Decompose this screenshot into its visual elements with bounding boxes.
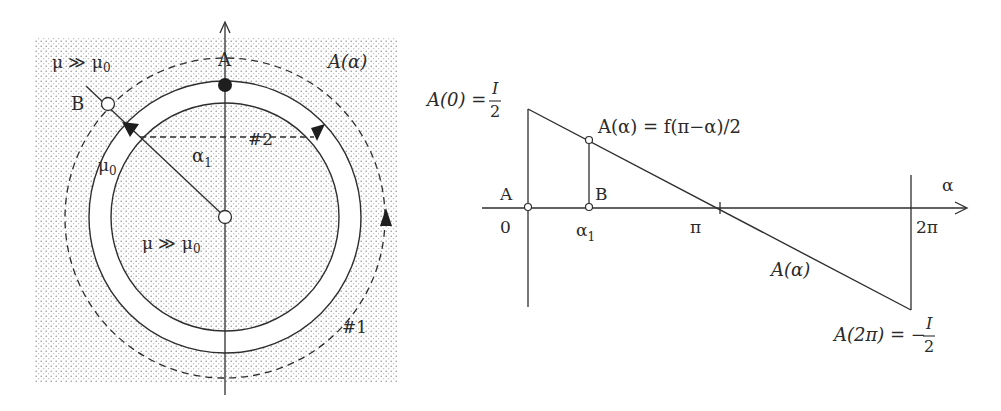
tick-zero-label: 0 — [500, 217, 511, 237]
inner-medium-label: μ ≫ μ0 — [142, 233, 201, 256]
center-marker — [219, 211, 232, 224]
a0-label: A(0) = — [425, 89, 486, 110]
point-a-marker-graph — [525, 204, 532, 211]
point-b-graph-label: B — [595, 184, 608, 204]
a-alpha-equation: A(α) = f(π−α)/2 — [597, 116, 741, 137]
point-a-marker — [218, 78, 232, 92]
a0-denominator: 2 — [490, 102, 500, 121]
x-axis-label: α — [942, 175, 954, 195]
a2pi-numerator: I — [925, 314, 933, 333]
a2pi-label: A(2π) = − — [832, 324, 926, 345]
tick-alpha1-label: α1 — [576, 220, 595, 244]
outer-medium-label: μ ≫ μ0 — [52, 52, 111, 75]
point-b-curve-marker — [586, 137, 593, 144]
a2pi-denominator: 2 — [924, 337, 934, 356]
point-b-marker-graph — [586, 204, 593, 211]
tick-pi-label: π — [690, 217, 701, 237]
contour-1-label: #1 — [342, 317, 367, 337]
left-diagram: μ ≫ μ0 A A(α) B #2 μ0 α1 μ ≫ μ0 #1 — [35, 22, 397, 395]
point-a-graph-label: A — [499, 184, 513, 204]
contour-2-label: #2 — [248, 129, 273, 149]
point-b-marker — [102, 98, 115, 111]
figure-canvas: μ ≫ μ0 A A(α) B #2 μ0 α1 μ ≫ μ0 #1 A(0) … — [0, 0, 1001, 411]
curve-label: A(α) — [769, 259, 810, 280]
tick-2pi-label: 2π — [916, 217, 938, 237]
point-a-label: A — [217, 49, 232, 70]
right-diagram: A(0) = I 2 A(α) = f(π−α)/2 A B 0 α1 π 2π… — [425, 79, 967, 356]
function-label: A(α) — [326, 51, 367, 72]
a0-numerator: I — [491, 79, 499, 98]
point-b-label: B — [71, 93, 84, 114]
